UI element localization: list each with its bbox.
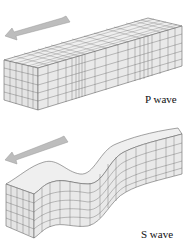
s-wave-label: S wave (141, 228, 173, 240)
arrow-left-icon (5, 136, 68, 164)
p-wave-panel: P wave (0, 0, 188, 122)
p-wave-label: P wave (145, 93, 177, 105)
s-wave-panel: S wave (0, 122, 188, 245)
s-wave-diagram (0, 122, 188, 245)
arrow-left-icon (5, 16, 70, 40)
